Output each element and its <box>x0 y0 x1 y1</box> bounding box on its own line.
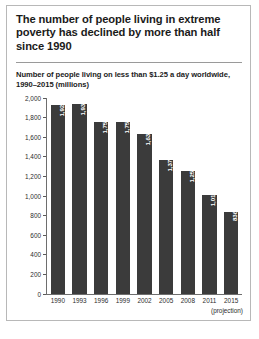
bar[interactable]: 1,371 <box>159 160 173 294</box>
bar-value-label: 1,632 <box>144 131 151 146</box>
y-axis: 2,0001,8001,6001,4001,2001,0008006004002… <box>16 98 46 294</box>
x-axis-tick-label: 2005 <box>155 297 177 304</box>
y-axis-tick-label: 1,000 <box>25 192 41 199</box>
title-divider <box>16 62 242 63</box>
bar[interactable]: 1,632 <box>137 134 151 294</box>
bar-fill: 1,632 <box>137 134 151 294</box>
bar[interactable]: 1,751 <box>116 122 130 294</box>
bar-value-label: 1,011 <box>209 192 216 207</box>
bar-value-label: 1,926 <box>58 102 65 117</box>
x-axis-tick-label: 1993 <box>69 297 91 304</box>
chart-subtitle: Number of people living on less than $1.… <box>16 70 244 90</box>
bar-value-label: 836 <box>231 211 238 221</box>
bar-value-label: 1,754 <box>101 119 108 134</box>
y-axis-tick-label: 800 <box>30 212 41 219</box>
bar-fill: 1,926 <box>51 105 65 294</box>
x-axis-line <box>46 294 242 295</box>
bar[interactable]: 1,255 <box>181 171 195 294</box>
bar-fill: 1,939 <box>72 104 86 294</box>
y-axis-tick-label: 1,600 <box>25 133 41 140</box>
y-axis-tick-label: 1,800 <box>25 114 41 121</box>
bar[interactable]: 1,011 <box>202 195 216 294</box>
bar-series: 1,9261,9391,7541,7511,6321,3711,2551,011… <box>47 98 242 294</box>
bar-fill: 1,255 <box>181 171 195 294</box>
bar-value-label: 1,371 <box>166 156 173 171</box>
x-axis-tick-label: 2011 <box>199 297 221 304</box>
bar-value-label: 1,751 <box>123 119 130 134</box>
bar-value-label: 1,255 <box>188 168 195 183</box>
x-axis-tick-label: 1990 <box>47 297 69 304</box>
y-axis-tick-label: 600 <box>30 231 41 238</box>
x-axis-tick-label: 1999 <box>112 297 134 304</box>
bar[interactable]: 1,926 <box>51 105 65 294</box>
bar[interactable]: 1,939 <box>72 104 86 294</box>
y-axis-tick-label: 400 <box>30 251 41 258</box>
x-axis-tick-label: 1996 <box>90 297 112 304</box>
bar-fill: 1,751 <box>116 122 130 294</box>
x-axis-tick-label: 2015 <box>220 297 242 304</box>
chart-figure: The number of people living in extreme p… <box>6 5 251 321</box>
y-axis-tick-label: 1,200 <box>25 172 41 179</box>
x-axis-tick-label: 2008 <box>177 297 199 304</box>
y-axis-tick-label: 1,400 <box>25 153 41 160</box>
bar[interactable]: 836 <box>224 212 238 294</box>
bar-fill: 1,371 <box>159 160 173 294</box>
bar-fill: 1,011 <box>202 195 216 294</box>
projection-note: (projection) <box>211 307 243 314</box>
bar-fill: 1,754 <box>94 122 108 294</box>
y-axis-tick-label: 0 <box>37 290 41 297</box>
bar-fill: 836 <box>224 212 238 294</box>
bar-value-label: 1,939 <box>79 100 86 115</box>
chart-title: The number of people living in extreme p… <box>16 13 243 53</box>
plot-area: 2,0001,8001,6001,4001,2001,0008006004002… <box>16 98 243 316</box>
x-axis-tick-label: 2002 <box>134 297 156 304</box>
y-axis-tick-label: 200 <box>30 270 41 277</box>
y-axis-tick-label: 2,000 <box>25 94 41 101</box>
bar[interactable]: 1,754 <box>94 122 108 294</box>
